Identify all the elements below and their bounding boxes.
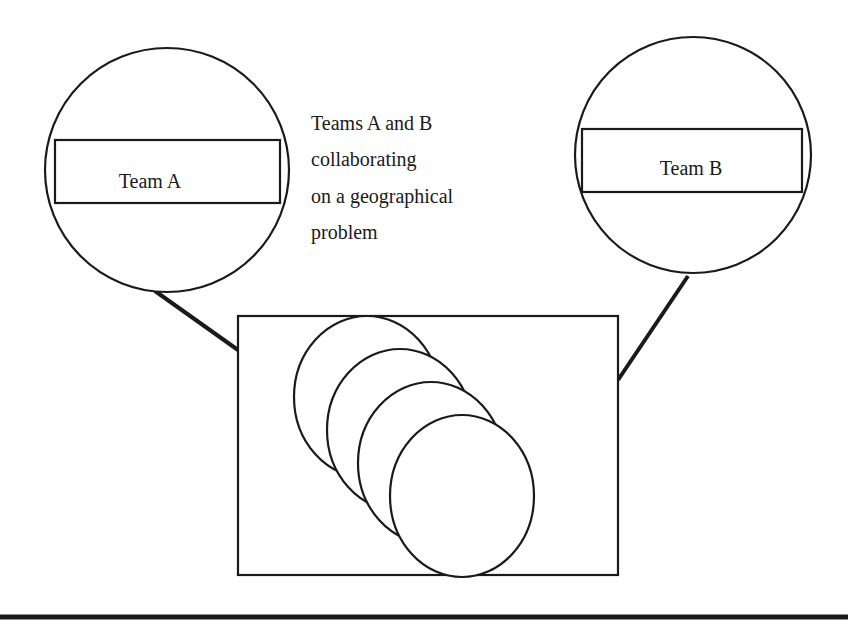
team-a-connector	[155, 291, 238, 350]
caption: Teams A and B collaborating on a geograp…	[311, 112, 454, 244]
team-a-label: Team A	[119, 170, 182, 192]
collaboration-diagram: Team A Teams A and B collaborating on a …	[0, 0, 848, 625]
caption-line-2: collaborating	[311, 148, 417, 171]
layer-circle-4	[390, 415, 534, 577]
caption-line-1: Teams A and B	[311, 112, 432, 134]
shared-workspace	[238, 316, 618, 577]
caption-line-4: problem	[311, 221, 378, 244]
team-a-bubble: Team A	[45, 48, 289, 292]
team-b-connector	[618, 276, 688, 380]
team-b-label: Team B	[660, 157, 722, 179]
team-b-bubble: Team B	[575, 37, 811, 273]
caption-line-3: on a geographical	[311, 185, 454, 208]
